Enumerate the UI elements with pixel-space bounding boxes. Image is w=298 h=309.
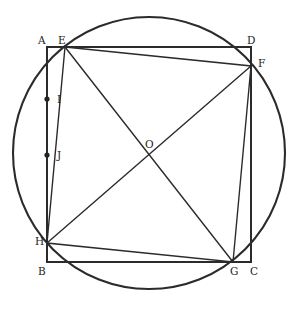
label-j: J [57,150,61,161]
label-a: A [38,35,46,46]
label-e: E [58,35,66,46]
diagonal-hf [47,66,251,243]
figure-canvas [0,0,298,309]
point-dot-i [44,96,49,101]
label-f: F [258,58,266,69]
label-b: B [38,266,46,277]
circle-outline [13,17,285,289]
label-c: C [250,266,258,277]
label-o: O [145,139,154,150]
label-d: D [247,35,256,46]
label-g: G [230,266,239,277]
label-i: I [57,94,61,105]
geometry-figure: A E D F I J O H B G C [0,0,298,309]
point-dot-j [44,152,49,157]
label-h: H [35,236,44,247]
